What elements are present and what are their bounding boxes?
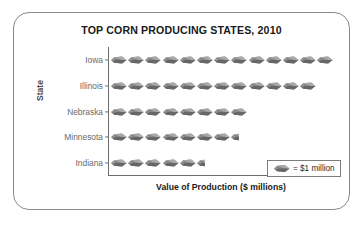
- row-label-indiana: Indiana: [76, 158, 103, 168]
- corn-ear-icon: [144, 132, 161, 143]
- corn-ear-icon: [282, 54, 299, 65]
- corn-ear-icon: [299, 54, 316, 65]
- corn-ear-icon: [110, 132, 127, 143]
- corn-ear-icon: [162, 106, 179, 117]
- row-label-minnesota: Minnesota: [64, 132, 103, 142]
- plot-area: IowaIllinoisNebraskaMinnesotaIndiana: [108, 47, 334, 176]
- corn-ear-icon: [179, 158, 196, 169]
- chart-card: TOP CORN PRODUCING STATES, 2010 State Io…: [13, 12, 350, 210]
- y-axis-tick: [105, 163, 109, 164]
- corn-ear-icon: [162, 80, 179, 91]
- y-axis-tick: [105, 59, 109, 60]
- corn-ear-icon: [127, 132, 144, 143]
- corn-ear-icon: [213, 106, 230, 117]
- corn-ear-icon: [265, 54, 282, 65]
- corn-ear-icon: [316, 54, 333, 65]
- corn-ear-icon: [110, 54, 127, 65]
- page-title: TOP CORN PRODUCING STATES, 2010: [14, 24, 349, 36]
- corn-ear-icon: [144, 80, 161, 91]
- corn-ear-icon: [144, 106, 161, 117]
- corn-ear-icon: [248, 54, 265, 65]
- corn-ear-icon: [179, 54, 196, 65]
- row-label-iowa: Iowa: [85, 55, 103, 65]
- corn-ear-icon: [162, 54, 179, 65]
- corn-ear-icon: [282, 80, 299, 91]
- corn-ear-icon: [230, 80, 247, 91]
- corn-ear-icon: [127, 158, 144, 169]
- corn-icon-strip: [110, 132, 239, 143]
- pictograph-row: Illinois: [108, 73, 334, 99]
- corn-ear-icon: [196, 80, 213, 91]
- corn-ear-icon: [110, 106, 127, 117]
- corn-ear-icon: [127, 80, 144, 91]
- y-axis-tick: [105, 111, 109, 112]
- corn-ear-icon: [110, 80, 127, 91]
- legend-label: = $1 million: [293, 164, 335, 173]
- corn-icon-strip: [110, 54, 333, 65]
- corn-ear-icon: [230, 54, 247, 65]
- corn-ear-icon: [179, 80, 196, 91]
- corn-ear-icon: [265, 80, 282, 91]
- corn-ear-icon: [110, 158, 127, 169]
- x-axis-title: Value of Production ($ millions): [108, 182, 334, 192]
- corn-ear-icon: [273, 160, 290, 178]
- corn-ear-icon-partial: [196, 158, 205, 169]
- corn-ear-icon: [144, 54, 161, 65]
- corn-ear-icon: [299, 80, 316, 91]
- legend: = $1 million: [267, 160, 341, 177]
- pictograph-row: Iowa: [108, 47, 334, 73]
- row-label-illinois: Illinois: [80, 81, 103, 91]
- corn-ear-icon: [213, 54, 230, 65]
- corn-ear-icon: [196, 106, 213, 117]
- y-axis-tick: [105, 85, 109, 86]
- corn-ear-icon: [213, 132, 230, 143]
- corn-ear-icon-partial: [230, 132, 239, 143]
- pictograph-row: Minnesota: [108, 124, 334, 150]
- corn-ear-icon: [162, 132, 179, 143]
- corn-ear-icon: [127, 106, 144, 117]
- row-label-nebraska: Nebraska: [67, 107, 103, 117]
- corn-ear-icon: [248, 80, 265, 91]
- corn-ear-icon: [213, 80, 230, 91]
- corn-ear-icon: [127, 54, 144, 65]
- corn-ear-icon: [144, 158, 161, 169]
- corn-ear-icon: [162, 158, 179, 169]
- corn-ear-icon: [179, 132, 196, 143]
- corn-ear-icon: [230, 106, 247, 117]
- corn-icon-strip: [110, 80, 316, 91]
- corn-ear-icon: [196, 54, 213, 65]
- corn-icon-strip: [110, 158, 205, 169]
- y-axis-title: State: [35, 80, 45, 101]
- corn-ear-icon: [196, 132, 213, 143]
- pictograph-row: Nebraska: [108, 99, 334, 125]
- corn-icon-strip: [110, 106, 248, 117]
- y-axis-tick: [105, 137, 109, 138]
- corn-ear-icon: [179, 106, 196, 117]
